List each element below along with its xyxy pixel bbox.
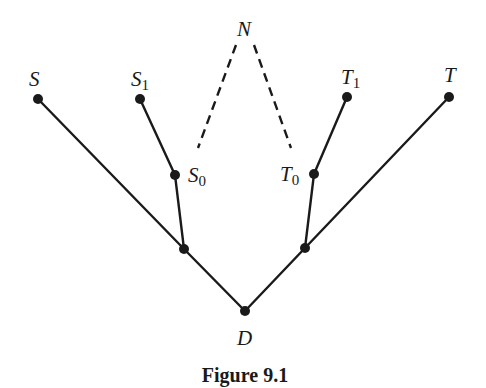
figure-caption: Figure 9.1 xyxy=(202,364,288,387)
label-S: S xyxy=(29,67,40,91)
node-S0 xyxy=(170,170,180,180)
label-T0: T0 xyxy=(280,162,299,188)
edge-S1-to-S0 xyxy=(140,99,175,175)
label-D: D xyxy=(236,326,252,350)
label-S1: S1 xyxy=(131,67,149,93)
node-S1 xyxy=(135,94,145,104)
node-T0 xyxy=(309,169,319,179)
edge-T0-to-right-junction xyxy=(305,174,314,248)
node-right-junction xyxy=(300,243,310,253)
edge-right-junction-to-D xyxy=(245,248,305,311)
node-S xyxy=(33,94,43,104)
node-D xyxy=(240,306,250,316)
node-T xyxy=(444,92,454,102)
dashed-edge-N-to-T0 xyxy=(254,45,291,148)
label-S0: S0 xyxy=(188,163,206,189)
dashed-edge-N-to-S0 xyxy=(198,45,236,148)
node-T1 xyxy=(342,92,352,102)
edge-T-to-right-junction xyxy=(305,97,449,248)
label-T1: T1 xyxy=(341,65,360,91)
node-left-junction xyxy=(179,244,189,254)
edge-T1-to-T0 xyxy=(314,97,347,174)
label-N: N xyxy=(236,17,252,41)
edge-S-to-left-junction xyxy=(38,99,184,249)
edge-left-junction-to-D xyxy=(184,249,245,311)
label-T: T xyxy=(444,63,457,87)
edge-S0-to-left-junction xyxy=(175,175,184,249)
figure-9-1-diagram: S S1 S0 N T0 T1 T D Figure 9.1 xyxy=(0,0,486,388)
